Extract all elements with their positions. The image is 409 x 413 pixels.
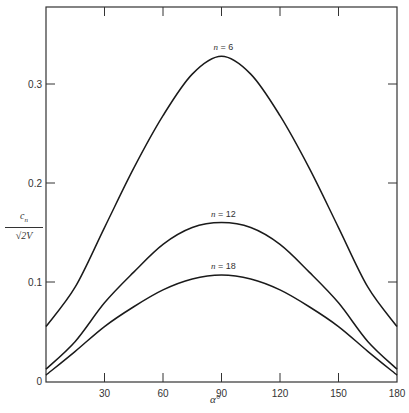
curve-n18 (46, 275, 397, 375)
y-axis-label-numerator: cn (2, 210, 46, 226)
curve-label: n = 6 (214, 42, 234, 52)
curve-n6 (46, 56, 397, 326)
curve-label: n = 12 (211, 209, 236, 219)
y-tick-label: 0.2 (28, 178, 42, 189)
y-tick-label: 0.1 (28, 277, 42, 288)
y-tick-label: 0 (36, 376, 42, 387)
x-tick-label: 30 (99, 388, 111, 399)
fraction-bar (5, 227, 43, 228)
x-tick-label: 150 (330, 388, 347, 399)
y-axis-label-denominator: √2V (2, 229, 46, 242)
tick-labels: 30609012015018000.10.20.3 (28, 79, 406, 399)
chart-canvas: 30609012015018000.10.20.3 n = 6n = 12n =… (0, 0, 409, 413)
x-axis-label: α° (210, 393, 220, 405)
curve-labels: n = 6n = 12n = 18 (211, 42, 236, 271)
plot-frame (46, 7, 397, 382)
y-tick-label: 0.3 (28, 79, 42, 90)
x-tick-label: 120 (272, 388, 289, 399)
x-tick-label: 180 (389, 388, 406, 399)
y-axis-label: cn √2V (2, 210, 46, 242)
curve-n12 (46, 223, 397, 370)
x-tick-label: 60 (157, 388, 169, 399)
axis-ticks (46, 7, 397, 382)
curve-label: n = 18 (211, 261, 236, 271)
